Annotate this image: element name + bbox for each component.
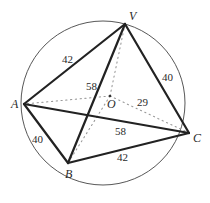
vertex-label-A: A — [10, 97, 19, 111]
segment-OA — [24, 96, 110, 104]
vertex-label-O: O — [107, 97, 116, 111]
vertex-label-B: B — [65, 167, 73, 181]
pyramid-diagram: V A B C O 42 40 58 40 58 42 29 — [0, 0, 210, 203]
edge-VA — [24, 24, 125, 104]
edge-AB — [24, 104, 68, 163]
length-label-VC: 40 — [162, 71, 174, 83]
circumscribed-circle — [21, 21, 185, 185]
length-label-AB: 40 — [32, 133, 44, 145]
vertex-label-V: V — [129, 9, 138, 23]
length-label-BC: 42 — [117, 151, 128, 163]
segment-OB — [68, 96, 110, 163]
edge-VC — [125, 24, 189, 133]
length-label-AC: 58 — [115, 125, 127, 137]
edge-BC — [68, 133, 189, 163]
edge-VB — [68, 24, 125, 163]
length-label-VB: 58 — [86, 80, 98, 92]
vertex-label-C: C — [193, 131, 202, 145]
length-label-VA: 42 — [62, 53, 73, 65]
length-label-OC: 29 — [137, 96, 149, 108]
